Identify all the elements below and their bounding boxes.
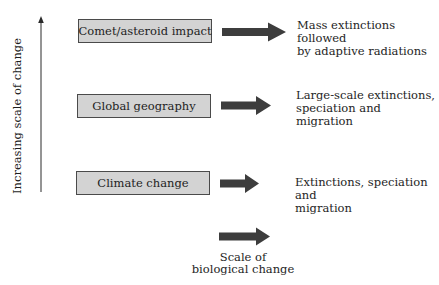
cause-label: Comet/asteroid impact — [78, 24, 211, 38]
effect-line: migration — [295, 202, 439, 215]
effect-line: migration — [296, 115, 435, 128]
cause-box-climate: Climate change — [76, 171, 210, 195]
cause-box-impact: Comet/asteroid impact — [78, 19, 212, 43]
effect-text-climate: Extinctions, speciation and migration — [295, 176, 439, 215]
legend-arrow — [219, 228, 270, 246]
arrow-climate — [220, 174, 259, 193]
cause-label: Global geography — [92, 99, 195, 113]
cause-box-geography: Global geography — [77, 94, 211, 118]
arrow-geography — [221, 96, 271, 115]
legend-label: Scale of biological change — [183, 251, 303, 275]
cause-label: Climate change — [97, 176, 188, 190]
effect-line: Extinctions, speciation and — [295, 176, 439, 202]
vertical-axis-arrow — [38, 16, 44, 192]
axis-label: Increasing scale of change — [10, 38, 24, 194]
effect-text-geography: Large-scale extinctions, speciation and … — [296, 89, 435, 128]
arrow-impact — [222, 23, 286, 42]
legend-line-2: biological change — [183, 263, 303, 275]
effect-line: by adaptive radiations — [297, 45, 439, 58]
effect-text-impact: Mass extinctions followed by adaptive ra… — [297, 19, 439, 58]
effect-line: Mass extinctions followed — [297, 19, 439, 45]
